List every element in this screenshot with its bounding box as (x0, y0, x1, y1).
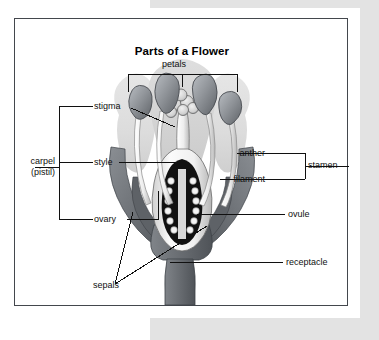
ovule (187, 227, 194, 234)
label-ovary: ovary (94, 214, 116, 225)
label-filament: filament (213, 174, 265, 185)
anther (129, 85, 152, 119)
stigma-lobe (178, 105, 189, 116)
screenshot-root: Parts of a Flower (0, 0, 379, 340)
figure-frame: Parts of a Flower (14, 18, 348, 306)
label-carpel-line1: carpel (30, 156, 55, 166)
label-carpel-line2: (pistil) (31, 167, 55, 177)
ovule (192, 188, 199, 195)
ovule (171, 227, 178, 234)
label-style: style (94, 157, 113, 168)
ovule (191, 218, 198, 225)
ovule (193, 198, 200, 205)
ovary-placenta (178, 169, 186, 239)
ovule (168, 178, 175, 185)
label-ovule: ovule (288, 209, 310, 220)
ovule (165, 208, 172, 215)
ovule (167, 218, 174, 225)
stem (165, 259, 196, 305)
label-sepals: sepals (93, 280, 119, 291)
ovule (190, 178, 197, 185)
label-carpel: carpel (pistil) (0, 156, 55, 177)
sepals-leader-left (115, 212, 133, 284)
label-anther: anther (213, 148, 265, 159)
label-stigma: stigma (94, 101, 121, 112)
style (177, 111, 190, 149)
label-stamen: stamen (308, 160, 338, 171)
label-petals: petals (162, 59, 186, 70)
label-receptacle: receptacle (286, 257, 328, 268)
ovule (193, 208, 200, 215)
